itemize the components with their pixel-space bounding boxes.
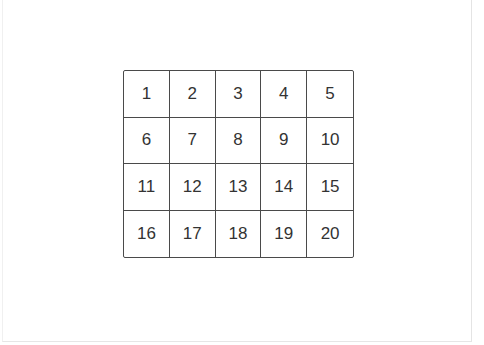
grid-cell: 5 xyxy=(307,71,353,118)
grid-cell: 6 xyxy=(124,118,170,165)
grid-cell: 19 xyxy=(261,211,307,258)
grid-cell: 11 xyxy=(124,164,170,211)
grid-cell: 14 xyxy=(261,164,307,211)
grid-cell: 17 xyxy=(170,211,216,258)
grid-cell: 7 xyxy=(170,118,216,165)
grid-cell: 3 xyxy=(216,71,262,118)
grid-cell: 16 xyxy=(124,211,170,258)
grid-cell: 15 xyxy=(307,164,353,211)
number-grid: 1234567891011121314151617181920 xyxy=(123,70,354,258)
grid-cell: 13 xyxy=(216,164,262,211)
grid-cell: 4 xyxy=(261,71,307,118)
grid-cell: 8 xyxy=(216,118,262,165)
grid-cell: 18 xyxy=(216,211,262,258)
grid-cell: 20 xyxy=(307,211,353,258)
grid-cell: 12 xyxy=(170,164,216,211)
grid-cell: 9 xyxy=(261,118,307,165)
grid-cell: 2 xyxy=(170,71,216,118)
grid-cell: 1 xyxy=(124,71,170,118)
grid-cell: 10 xyxy=(307,118,353,165)
